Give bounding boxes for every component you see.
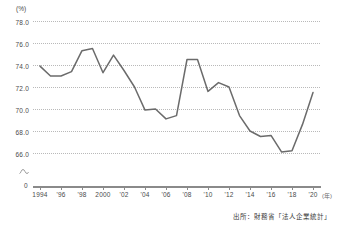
- y-axis-tick-label: 70.0: [16, 107, 29, 114]
- y-axis-tick-label: 74.0: [16, 63, 29, 70]
- y-axis-tick-label: 78.0: [16, 19, 29, 26]
- x-axis-tick-label: '08: [182, 191, 191, 198]
- x-axis-tick: [271, 186, 272, 190]
- chart-page: (%) 78.076.074.072.070.068.066.0 0 1994'…: [0, 0, 337, 226]
- y-axis-tick-label: 72.0: [16, 85, 29, 92]
- x-axis-unit-label: (年): [322, 191, 332, 200]
- x-axis-tick: [82, 186, 83, 190]
- x-axis-tick-label: '02: [119, 191, 128, 198]
- x-axis-tick: [61, 186, 62, 190]
- x-axis-tick-label: 2000: [95, 191, 110, 198]
- x-axis-tick-label: '18: [287, 191, 296, 198]
- x-axis-tick: [208, 186, 209, 190]
- x-axis-tick: [313, 186, 314, 190]
- x-axis-tick: [250, 186, 251, 190]
- series-line-chart: [33, 15, 320, 163]
- x-axis-tick: [40, 186, 41, 190]
- x-axis-tick-label: '20: [308, 191, 317, 198]
- source-note: 出所：財務省「法人企業統計」: [233, 211, 331, 221]
- x-axis-tick-label: 1994: [32, 191, 47, 198]
- x-axis-tick: [124, 186, 125, 190]
- x-axis-tick-label: '96: [56, 191, 65, 198]
- x-axis-tick: [292, 186, 293, 190]
- x-axis-tick-label: '04: [140, 191, 149, 198]
- y-axis-tick-label: 66.0: [16, 151, 29, 158]
- y-axis-zero-label: 0: [24, 182, 28, 189]
- x-axis-tick-label: '14: [245, 191, 254, 198]
- x-axis-tick-label: '98: [77, 191, 86, 198]
- x-axis-tick-label: '06: [161, 191, 170, 198]
- x-axis-tick-label: '12: [224, 191, 233, 198]
- x-axis-tick: [229, 186, 230, 190]
- x-axis-tick-label: '10: [203, 191, 212, 198]
- x-axis-tick-label: '16: [266, 191, 275, 198]
- y-axis-tick-label: 68.0: [16, 129, 29, 136]
- x-axis-tick: [166, 186, 167, 190]
- axis-break-squiggle-icon: [19, 168, 29, 175]
- x-axis-tick: [103, 186, 104, 190]
- x-axis-line: [33, 186, 321, 188]
- y-axis-tick-label: 76.0: [16, 41, 29, 48]
- axis-break-icon: [19, 168, 29, 175]
- x-axis-tick: [187, 186, 188, 190]
- plot-area: 78.076.074.072.070.068.066.0: [33, 15, 320, 163]
- x-axis-tick: [145, 186, 146, 190]
- y-axis-unit-label: (%): [16, 5, 26, 12]
- series-line-labor-share: [40, 49, 313, 152]
